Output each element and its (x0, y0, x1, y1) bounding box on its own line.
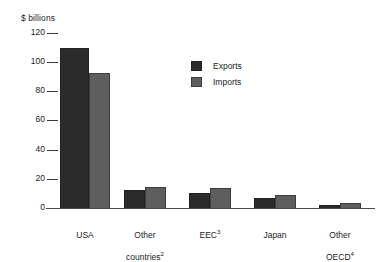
x-label-other-oecd-line2: OECD4 (310, 252, 370, 262)
bar-imports-eec (210, 188, 231, 209)
x-label-other-oecd-superscript: 4 (351, 250, 354, 257)
legend: Exports Imports (191, 58, 242, 90)
x-label-japan: Japan (245, 219, 305, 241)
bar-exports-eec (189, 193, 210, 209)
x-label-usa: USA (55, 219, 115, 241)
legend-swatch-exports-icon (191, 61, 202, 71)
bar-imports-usa (89, 73, 110, 209)
legend-swatch-imports-icon (191, 77, 202, 87)
bar-exports-usa (60, 48, 89, 209)
x-label-eec-text: EEC (200, 230, 217, 240)
x-label-other-countries-line2: countries2 (115, 252, 175, 262)
bar-chart: $ billions 120 100 80 60 40 20 0 (0, 0, 390, 262)
x-label-other-countries-line2-text: countries (126, 252, 161, 262)
bar-imports-other-countries (145, 187, 166, 209)
x-label-other-countries-superscript: 2 (161, 250, 164, 257)
x-label-other-oecd-line2-text: OECD (326, 252, 351, 262)
x-label-eec: EEC3 (180, 219, 240, 241)
x-label-other-oecd: Other OECD4 (310, 219, 370, 262)
bar-imports-japan (275, 195, 296, 209)
legend-label-exports: Exports (213, 61, 242, 71)
x-label-japan-text: Japan (263, 230, 286, 240)
x-label-other-countries: Other countries2 (115, 219, 175, 262)
legend-item-exports: Exports (191, 58, 242, 74)
bar-exports-other-countries (124, 190, 145, 209)
legend-label-imports: Imports (213, 77, 241, 87)
legend-item-imports: Imports (191, 74, 242, 90)
x-axis-baseline (46, 208, 375, 209)
x-label-usa-text: USA (76, 230, 93, 240)
x-label-other-oecd-line1: Other (310, 230, 370, 241)
x-label-other-countries-line1: Other (115, 230, 175, 241)
x-label-eec-superscript: 3 (217, 228, 220, 235)
